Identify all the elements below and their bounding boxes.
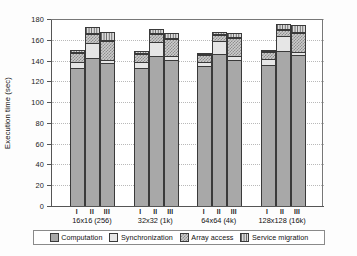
bar[interactable] bbox=[227, 19, 242, 206]
y-tick-label: 120 bbox=[31, 77, 44, 86]
legend-item[interactable]: Synchronization bbox=[109, 233, 172, 242]
bar-segment bbox=[291, 33, 306, 53]
bar-segment bbox=[261, 65, 276, 206]
bar-segment bbox=[134, 68, 149, 206]
x-sub-label: III bbox=[99, 208, 115, 215]
bar[interactable] bbox=[212, 19, 227, 206]
y-tick-label: 100 bbox=[31, 98, 44, 107]
y-tick-label: 180 bbox=[31, 15, 44, 24]
bar[interactable] bbox=[276, 19, 291, 206]
legend-item[interactable]: Service migration bbox=[240, 233, 308, 242]
legend-label: Computation bbox=[61, 233, 102, 242]
bar-group bbox=[197, 19, 242, 206]
bar-segment bbox=[164, 39, 179, 57]
x-category-label: 128x128 (16k) bbox=[237, 216, 327, 225]
y-axis-title: Execution time (sec) bbox=[3, 77, 12, 149]
plot-area bbox=[51, 19, 324, 207]
bar-group bbox=[70, 19, 115, 206]
bar-segment bbox=[85, 34, 100, 43]
bar-segment bbox=[134, 54, 149, 61]
x-sub-label: I bbox=[132, 208, 148, 215]
bar-segment bbox=[149, 34, 164, 42]
bar[interactable] bbox=[197, 19, 212, 206]
bar-segment bbox=[100, 32, 115, 41]
chart-figure: Execution time (sec) 0204060801001201401… bbox=[0, 0, 357, 256]
bar-segment bbox=[100, 41, 115, 60]
bar-segment bbox=[276, 36, 291, 52]
y-tick-label: 60 bbox=[36, 139, 44, 148]
legend-label: Synchronization bbox=[121, 233, 173, 242]
bar-segment bbox=[227, 60, 242, 206]
x-sub-label: I bbox=[259, 208, 275, 215]
legend-item[interactable]: Array access bbox=[180, 233, 234, 242]
bar-segment bbox=[149, 56, 164, 206]
bar[interactable] bbox=[164, 19, 179, 206]
x-sub-label: II bbox=[274, 208, 290, 215]
bar-segment bbox=[70, 68, 85, 206]
y-tick-label: 80 bbox=[36, 118, 44, 127]
bar[interactable] bbox=[85, 19, 100, 206]
bar-segment bbox=[291, 55, 306, 206]
bar-segment bbox=[276, 51, 291, 206]
legend-label: Service migration bbox=[252, 233, 308, 242]
x-sub-label: III bbox=[289, 208, 305, 215]
legend-swatch bbox=[180, 233, 189, 242]
plot-frame-right bbox=[322, 19, 323, 206]
legend-swatch bbox=[109, 233, 118, 242]
y-tick-label: 20 bbox=[36, 181, 44, 190]
bar-segment bbox=[212, 54, 227, 206]
y-tick-label: 40 bbox=[36, 160, 44, 169]
x-sub-label: II bbox=[147, 208, 163, 215]
x-sub-label: I bbox=[69, 208, 85, 215]
x-sub-label: II bbox=[84, 208, 100, 215]
bar[interactable] bbox=[134, 19, 149, 206]
legend-label: Array access bbox=[191, 233, 233, 242]
bar-segment bbox=[85, 43, 100, 59]
bar-segment bbox=[212, 41, 227, 55]
legend-item[interactable]: Computation bbox=[50, 233, 103, 242]
bar-segment bbox=[149, 42, 164, 57]
y-tick-label: 0 bbox=[40, 202, 44, 211]
legend-swatch bbox=[240, 233, 249, 242]
plot-frame-top bbox=[51, 19, 323, 20]
x-sub-label: III bbox=[162, 208, 178, 215]
y-tick-label: 140 bbox=[31, 56, 44, 65]
x-sub-label: II bbox=[211, 208, 227, 215]
bar[interactable] bbox=[100, 19, 115, 206]
bar[interactable] bbox=[70, 19, 85, 206]
bar-segment bbox=[197, 66, 212, 206]
x-sub-label: I bbox=[196, 208, 212, 215]
bar-segment bbox=[164, 60, 179, 206]
bar[interactable] bbox=[291, 19, 306, 206]
bar-segment bbox=[227, 38, 242, 57]
bar-segment bbox=[85, 58, 100, 206]
bar-segment bbox=[100, 63, 115, 206]
bar-segment bbox=[70, 53, 85, 61]
bar-segment bbox=[291, 25, 306, 32]
bar-group bbox=[134, 19, 179, 206]
y-tick-label: 160 bbox=[31, 35, 44, 44]
bar[interactable] bbox=[149, 19, 164, 206]
legend-swatch bbox=[50, 233, 59, 242]
bar-group bbox=[261, 19, 306, 206]
bar[interactable] bbox=[261, 19, 276, 206]
x-sub-label: III bbox=[226, 208, 242, 215]
chart-legend: ComputationSynchronizationArray accessSe… bbox=[33, 230, 325, 245]
